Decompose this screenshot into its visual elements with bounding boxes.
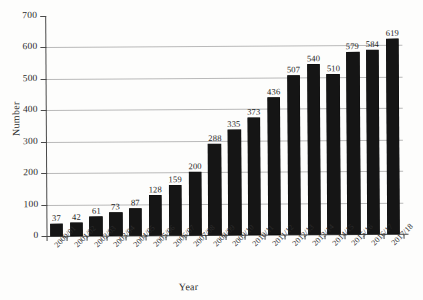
y-axis-title: Number bbox=[10, 89, 21, 149]
x-axis-title: Year bbox=[179, 281, 199, 292]
x-axis-tick bbox=[66, 237, 67, 241]
bar-value-label: 507 bbox=[278, 64, 308, 74]
x-axis-tick bbox=[404, 235, 405, 239]
bar-value-label: 436 bbox=[259, 86, 289, 96]
bar-value-label: 540 bbox=[298, 53, 328, 63]
bar-value-labels-group: 3742617387128159200288335373436507540510… bbox=[0, 0, 422, 1]
y-axis-tick-label: 100 bbox=[0, 199, 38, 209]
bar-value-label: 619 bbox=[377, 28, 407, 38]
x-axis-tick bbox=[245, 236, 246, 240]
bar-value-label: 584 bbox=[358, 39, 388, 49]
bar-value-label: 87 bbox=[120, 197, 150, 207]
bar bbox=[268, 98, 281, 235]
x-axis-tick bbox=[285, 236, 286, 240]
y-axis-tick-label: 200 bbox=[0, 167, 38, 177]
x-axis-tick bbox=[304, 235, 305, 239]
bar-value-label: 335 bbox=[219, 118, 249, 128]
bar bbox=[228, 130, 241, 235]
x-axis-tick bbox=[166, 236, 167, 240]
x-axis-tick-marks-group bbox=[0, 0, 422, 1]
x-axis-tick bbox=[344, 235, 345, 239]
x-axis-tick bbox=[47, 237, 48, 241]
bar-chart: 0100200300400500600700 37426173871281592… bbox=[0, 0, 423, 300]
y-axis-tick-label: 700 bbox=[0, 10, 37, 20]
bars-group bbox=[0, 0, 422, 1]
bar bbox=[248, 117, 261, 234]
bar-value-label: 159 bbox=[160, 174, 190, 184]
gridline bbox=[45, 14, 402, 17]
bar bbox=[287, 75, 300, 234]
x-axis-tick bbox=[265, 236, 266, 240]
bar bbox=[307, 65, 320, 235]
bar-value-label: 288 bbox=[199, 133, 229, 143]
x-axis-category-labels-group: 2000/012001/022002/032003/042004/052005/… bbox=[0, 0, 422, 1]
gridlines-group bbox=[0, 0, 422, 1]
x-axis-tick bbox=[225, 236, 226, 240]
x-axis-tick bbox=[146, 236, 147, 240]
y-axis-tick-label: 500 bbox=[0, 73, 38, 83]
x-axis-tick bbox=[364, 235, 365, 239]
bar-value-label: 510 bbox=[318, 63, 348, 73]
y-axis-tick-label: 0 bbox=[0, 230, 39, 240]
bar-value-label: 373 bbox=[239, 106, 269, 116]
x-axis-tick bbox=[106, 237, 107, 241]
x-axis-tick bbox=[205, 236, 206, 240]
x-axis-tick bbox=[324, 235, 325, 239]
bar-value-label: 128 bbox=[140, 184, 170, 194]
bar bbox=[366, 50, 379, 234]
x-axis-tick bbox=[185, 236, 186, 240]
bar bbox=[386, 39, 399, 234]
x-axis-tick bbox=[126, 237, 127, 241]
y-axis-line bbox=[45, 16, 47, 237]
x-axis-tick bbox=[384, 235, 385, 239]
bar-value-label: 200 bbox=[180, 161, 210, 171]
bar bbox=[208, 144, 221, 235]
y-axis-ticks-group: 0100200300400500600700 bbox=[0, 0, 422, 1]
bar bbox=[347, 52, 360, 234]
bar bbox=[327, 74, 340, 234]
x-axis-tick bbox=[86, 237, 87, 241]
y-axis-tick-label: 600 bbox=[0, 41, 37, 51]
